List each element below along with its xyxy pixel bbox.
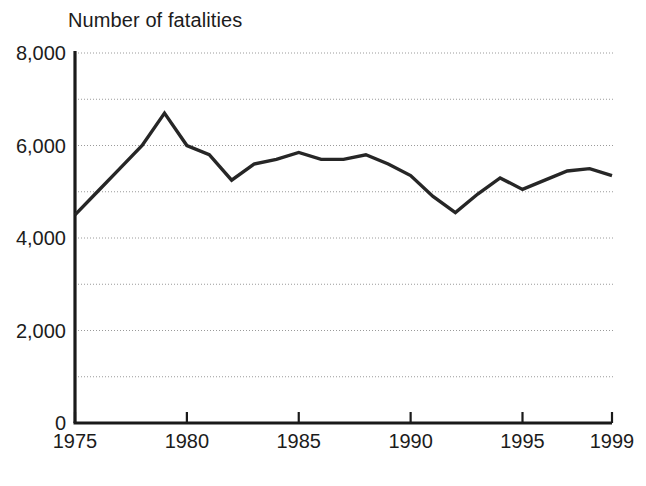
- x-axis-ticks: [75, 412, 612, 423]
- line-chart-plot: [0, 0, 646, 486]
- data-series-line: [75, 113, 612, 215]
- chart-figure: Number of fatalities 02,0004,0006,0008,0…: [0, 0, 646, 486]
- axis-lines: [74, 51, 613, 423]
- series-fatalities: [75, 113, 612, 215]
- gridlines: [75, 53, 614, 377]
